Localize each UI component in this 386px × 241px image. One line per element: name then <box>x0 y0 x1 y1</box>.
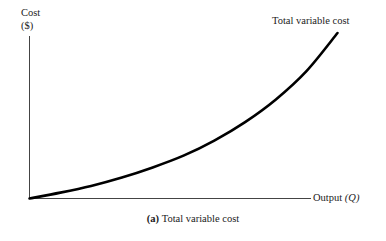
figure-caption-text: Total variable cost <box>162 213 239 224</box>
figure-caption-tag: (a) <box>147 213 162 224</box>
total-variable-cost-curve <box>30 33 338 198</box>
figure-total-variable-cost: Cost ($) Output (Q) Total variable cost … <box>0 0 386 241</box>
figure-caption: (a) Total variable cost <box>0 213 386 224</box>
plot-area <box>0 0 386 241</box>
